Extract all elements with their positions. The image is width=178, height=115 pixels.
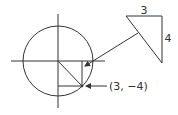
- point-marker: [81, 85, 84, 88]
- diagram-canvas: 3 4 (3, −4): [0, 0, 178, 115]
- triangle-arrow: [85, 33, 138, 66]
- radius-line: [58, 61, 82, 86]
- side-triangle: [126, 16, 162, 63]
- label-3: 3: [141, 4, 148, 17]
- point-label: (3, −4): [109, 80, 148, 93]
- label-4: 4: [165, 32, 172, 45]
